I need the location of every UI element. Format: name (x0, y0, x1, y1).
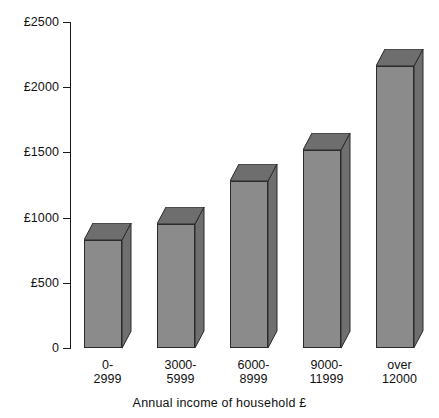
bar-top-face (303, 133, 351, 151)
bar-column (376, 49, 423, 348)
x-axis-category-label-line: 9000- (291, 358, 362, 372)
x-axis-category-label-line: 5999 (145, 372, 216, 386)
y-axis-tick-label-text: 0 (52, 342, 59, 355)
bar-column (84, 223, 131, 348)
y-axis-tick-label-text: £2500 (24, 16, 59, 29)
y-axis-tick-label-text: £1000 (24, 212, 59, 225)
x-axis-category-label-line: 3000- (145, 358, 216, 372)
x-axis-category-label: 6000-8999 (218, 358, 289, 386)
bar-side-face (122, 223, 131, 348)
x-axis-category-label-line: 12000 (364, 372, 435, 386)
y-axis-tick-label-text: £500 (31, 277, 59, 290)
x-axis-category-label: 9000-11999 (291, 358, 362, 386)
bar-top-face (376, 49, 424, 67)
y-axis-tick-label: 0 (0, 341, 59, 355)
y-axis-tick-mark (63, 348, 71, 349)
x-axis-category-label: 0-2999 (72, 358, 143, 386)
bar-column (157, 207, 204, 348)
x-axis-category-label-line: 0- (72, 358, 143, 372)
bar-chart: 0£500£1000£1500£2000£2500 0-29993000-599… (0, 0, 439, 418)
bar-top-face (230, 164, 278, 182)
y-axis-line (70, 22, 71, 348)
bar-front-face (230, 181, 268, 348)
bar-side-face (195, 207, 204, 348)
y-axis-tick-mark (63, 152, 71, 153)
x-axis-category-label: 3000-5999 (145, 358, 216, 386)
x-axis-category-label-line: 2999 (72, 372, 143, 386)
bar-top-face (157, 207, 205, 225)
x-axis-category-label-line: 6000- (218, 358, 289, 372)
plot-area: 0£500£1000£1500£2000£2500 0-29993000-599… (0, 0, 439, 418)
bar-front-face (376, 66, 414, 348)
y-axis-tick-label: £2500 (0, 15, 59, 29)
y-axis-tick-label: £1500 (0, 145, 59, 159)
y-axis-tick-label-text: £2000 (24, 81, 59, 94)
x-axis-category-label-line: 8999 (218, 372, 289, 386)
y-axis-tick-label: £1000 (0, 211, 59, 225)
bar-column (303, 133, 350, 348)
x-axis-category-label-line: over (364, 358, 435, 372)
y-axis-tick-mark (63, 22, 71, 23)
y-axis-tick-mark (63, 87, 71, 88)
x-axis-title: Annual income of household £ (0, 396, 439, 410)
y-axis-tick-label-text: £1500 (24, 146, 59, 159)
bar-front-face (157, 224, 195, 348)
x-axis-category-label: over12000 (364, 358, 435, 386)
bar-column (230, 164, 277, 348)
y-axis-tick-mark (63, 218, 71, 219)
x-axis-category-label-line: 11999 (291, 372, 362, 386)
bar-side-face (268, 164, 277, 348)
bar-side-face (414, 49, 423, 348)
bar-front-face (84, 240, 122, 348)
bar-top-face (84, 223, 132, 241)
y-axis-tick-label: £500 (0, 276, 59, 290)
y-axis-tick-mark (63, 283, 71, 284)
bar-side-face (341, 133, 350, 348)
bar-front-face (303, 150, 341, 348)
y-axis-tick-label: £2000 (0, 80, 59, 94)
